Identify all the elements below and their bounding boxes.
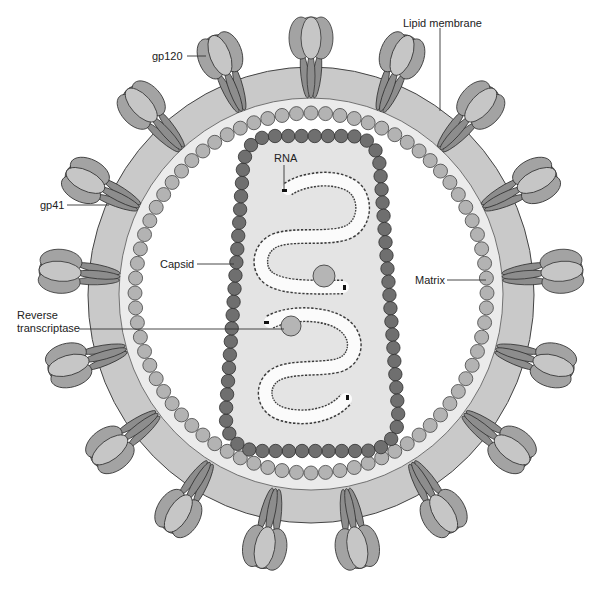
rna-end-marker: [264, 321, 269, 324]
capsid-protein: [388, 354, 401, 367]
capsid-protein: [381, 262, 394, 275]
matrix-protein: [196, 144, 210, 158]
capsid-protein: [321, 129, 334, 142]
reverse-transcriptase-2: [281, 316, 301, 336]
capsid-protein: [231, 242, 244, 255]
capsid-protein: [225, 322, 238, 335]
rna-end-marker: [343, 285, 346, 290]
capsid-protein: [256, 444, 269, 457]
matrix-protein: [443, 397, 457, 411]
gp120-head: [42, 338, 94, 392]
gp120-head: [374, 28, 430, 83]
matrix-protein: [480, 286, 494, 300]
capsid-protein: [282, 129, 295, 142]
capsid-protein: [269, 444, 282, 457]
matrix-protein: [304, 106, 318, 120]
matrix-protein: [412, 428, 426, 442]
matrix-protein: [220, 128, 234, 142]
capsid-protein: [387, 341, 400, 354]
capsid-protein: [236, 163, 249, 176]
matrix-protein: [400, 135, 414, 149]
matrix-protein: [333, 464, 347, 478]
matrix-protein: [275, 108, 289, 122]
matrix-protein: [289, 465, 303, 479]
capsid-protein: [243, 443, 256, 456]
label-reverse-transcriptase-line2: transcriptase: [17, 322, 80, 334]
capsid-protein: [228, 282, 241, 295]
matrix-protein: [208, 437, 222, 451]
gp120-head: [239, 523, 290, 572]
matrix-protein: [347, 112, 361, 126]
capsid-protein: [379, 236, 392, 249]
matrix-protein: [149, 372, 163, 386]
matrix-protein: [478, 256, 492, 270]
capsid-protein: [383, 288, 396, 301]
capsid-protein: [386, 328, 399, 341]
matrix-protein: [133, 330, 147, 344]
capsid-protein: [295, 129, 308, 142]
capsid-protein: [222, 361, 235, 374]
capsid-protein: [234, 190, 247, 203]
matrix-protein: [157, 188, 171, 202]
capsid-protein: [391, 407, 404, 420]
matrix-protein: [361, 116, 375, 130]
matrix-protein: [261, 460, 275, 474]
rna-end-marker: [346, 395, 349, 400]
label-lipid-membrane: Lipid membrane: [403, 17, 482, 29]
matrix-protein: [423, 154, 437, 168]
matrix-protein: [475, 330, 489, 344]
matrix-protein: [465, 214, 479, 228]
capsid-protein: [219, 414, 232, 427]
matrix-protein: [465, 358, 479, 372]
matrix-protein: [133, 242, 147, 256]
matrix-protein: [143, 358, 157, 372]
matrix-protein: [247, 116, 261, 130]
matrix-protein: [423, 418, 437, 432]
matrix-protein: [165, 175, 179, 189]
matrix-protein: [149, 200, 163, 214]
capsid-protein: [226, 308, 239, 321]
capsid-protein: [219, 401, 232, 414]
matrix-protein: [479, 301, 493, 315]
capsid-protein: [232, 229, 245, 242]
matrix-protein: [319, 107, 333, 121]
capsid-protein: [220, 388, 233, 401]
matrix-protein: [388, 128, 402, 142]
gp120-head: [527, 338, 579, 392]
matrix-protein: [129, 271, 143, 285]
capsid-protein: [295, 444, 308, 457]
matrix-protein: [233, 121, 247, 135]
matrix-protein: [470, 344, 484, 358]
matrix-protein: [361, 456, 375, 470]
capsid-protein: [268, 129, 281, 142]
matrix-protein: [347, 460, 361, 474]
matrix-protein: [459, 200, 473, 214]
matrix-protein: [175, 408, 189, 422]
capsid-protein: [227, 295, 240, 308]
matrix-protein: [451, 188, 465, 202]
capsid-protein: [373, 156, 386, 169]
matrix-protein: [375, 121, 389, 135]
capsid-protein: [369, 144, 382, 157]
matrix-protein: [130, 256, 144, 270]
capsid-protein: [390, 420, 403, 433]
matrix-protein: [479, 271, 493, 285]
matrix-protein: [470, 228, 484, 242]
gp120-head: [539, 247, 585, 295]
matrix-protein: [130, 316, 144, 330]
capsid-protein: [223, 427, 236, 440]
capsid-protein: [309, 444, 322, 457]
capsid-protein: [322, 444, 335, 457]
capsid-protein: [224, 335, 237, 348]
capsid-protein: [233, 203, 246, 216]
capsid-protein: [378, 222, 391, 235]
matrix-protein: [289, 107, 303, 121]
capsid-protein: [282, 444, 295, 457]
matrix-protein: [275, 464, 289, 478]
matrix-protein: [157, 384, 171, 398]
capsid-protein: [232, 216, 245, 229]
label-gp120: gp120: [152, 50, 183, 62]
capsid-protein: [390, 381, 403, 394]
matrix-protein: [433, 408, 447, 422]
capsid-protein: [223, 348, 236, 361]
